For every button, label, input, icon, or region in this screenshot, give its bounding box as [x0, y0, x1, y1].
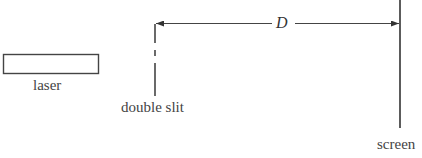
screen-label: screen	[377, 137, 415, 152]
diagram-canvas	[0, 0, 422, 158]
double-slit-label: double slit	[121, 100, 184, 115]
laser-box	[4, 55, 99, 74]
dimension-label-d: D	[273, 15, 291, 31]
laser-label: laser	[33, 78, 61, 93]
